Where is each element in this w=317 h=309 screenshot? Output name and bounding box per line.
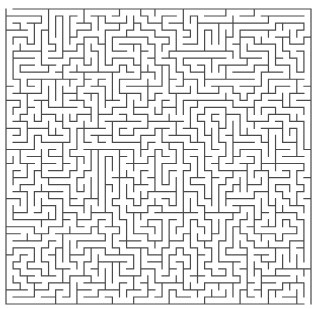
maze-walls <box>6 9 311 304</box>
maze-grid[interactable] <box>0 0 317 309</box>
maze-board: Maze <box>0 0 317 309</box>
